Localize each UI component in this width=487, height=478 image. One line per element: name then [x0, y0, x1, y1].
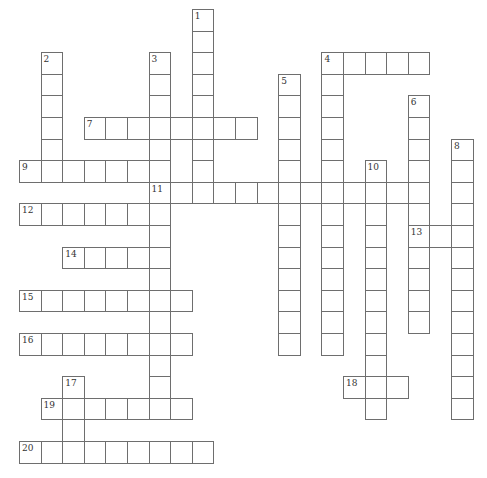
crossword-cell[interactable]	[235, 117, 258, 140]
crossword-cell[interactable]	[127, 117, 150, 140]
crossword-cell[interactable]	[321, 160, 344, 183]
crossword-cell[interactable]	[149, 160, 172, 183]
crossword-cell[interactable]: 18	[343, 376, 366, 399]
crossword-cell[interactable]	[386, 376, 409, 399]
crossword-cell[interactable]	[257, 182, 280, 205]
crossword-cell[interactable]	[278, 268, 301, 291]
crossword-cell[interactable]	[278, 203, 301, 226]
crossword-cell[interactable]	[343, 182, 366, 205]
crossword-cell[interactable]	[321, 139, 344, 162]
crossword-cell[interactable]: 2	[41, 52, 64, 75]
crossword-cell[interactable]	[386, 182, 409, 205]
crossword-cell[interactable]	[41, 139, 64, 162]
crossword-cell[interactable]: 15	[19, 290, 42, 313]
crossword-cell[interactable]	[192, 441, 215, 464]
crossword-cell[interactable]	[278, 333, 301, 356]
crossword-cell[interactable]	[41, 160, 64, 183]
crossword-cell[interactable]	[451, 160, 474, 183]
crossword-cell[interactable]	[365, 290, 388, 313]
crossword-cell[interactable]	[149, 290, 172, 313]
crossword-cell[interactable]	[170, 117, 193, 140]
crossword-cell[interactable]	[213, 117, 236, 140]
crossword-cell[interactable]: 14	[62, 247, 85, 270]
crossword-cell[interactable]	[84, 333, 107, 356]
crossword-cell[interactable]	[408, 182, 431, 205]
crossword-cell[interactable]	[365, 225, 388, 248]
crossword-cell[interactable]	[41, 290, 64, 313]
crossword-cell[interactable]: 19	[41, 398, 64, 421]
crossword-cell[interactable]	[192, 52, 215, 75]
crossword-cell[interactable]	[386, 52, 409, 75]
crossword-cell[interactable]	[149, 225, 172, 248]
crossword-cell[interactable]	[62, 441, 85, 464]
crossword-cell[interactable]	[365, 203, 388, 226]
crossword-cell[interactable]	[149, 203, 172, 226]
crossword-cell[interactable]	[408, 52, 431, 75]
crossword-cell[interactable]	[278, 311, 301, 334]
crossword-cell[interactable]	[300, 182, 323, 205]
crossword-cell[interactable]	[62, 160, 85, 183]
crossword-cell[interactable]	[105, 398, 128, 421]
crossword-cell[interactable]	[365, 333, 388, 356]
crossword-cell[interactable]	[451, 225, 474, 248]
crossword-cell[interactable]	[41, 441, 64, 464]
crossword-cell[interactable]	[149, 376, 172, 399]
crossword-cell[interactable]	[321, 74, 344, 97]
crossword-cell[interactable]	[105, 441, 128, 464]
crossword-cell[interactable]	[278, 290, 301, 313]
crossword-cell[interactable]: 7	[84, 117, 107, 140]
crossword-cell[interactable]	[127, 398, 150, 421]
crossword-cell[interactable]	[451, 290, 474, 313]
crossword-cell[interactable]	[170, 290, 193, 313]
crossword-cell[interactable]	[321, 268, 344, 291]
crossword-cell[interactable]	[62, 333, 85, 356]
crossword-cell[interactable]	[365, 376, 388, 399]
crossword-cell[interactable]	[105, 247, 128, 270]
crossword-cell[interactable]	[365, 355, 388, 378]
crossword-cell[interactable]: 4	[321, 52, 344, 75]
crossword-cell[interactable]	[278, 95, 301, 118]
crossword-cell[interactable]	[321, 182, 344, 205]
crossword-cell[interactable]	[451, 376, 474, 399]
crossword-cell[interactable]	[278, 117, 301, 140]
crossword-cell[interactable]	[365, 311, 388, 334]
crossword-cell[interactable]	[62, 290, 85, 313]
crossword-cell[interactable]	[365, 268, 388, 291]
crossword-cell[interactable]	[192, 117, 215, 140]
crossword-cell[interactable]	[278, 247, 301, 270]
crossword-cell[interactable]	[321, 225, 344, 248]
crossword-cell[interactable]	[408, 311, 431, 334]
crossword-cell[interactable]	[149, 139, 172, 162]
crossword-cell[interactable]: 16	[19, 333, 42, 356]
crossword-cell[interactable]	[149, 247, 172, 270]
crossword-cell[interactable]	[192, 31, 215, 54]
crossword-cell[interactable]	[41, 203, 64, 226]
crossword-cell[interactable]	[213, 182, 236, 205]
crossword-cell[interactable]	[127, 160, 150, 183]
crossword-cell[interactable]	[105, 203, 128, 226]
crossword-cell[interactable]	[84, 290, 107, 313]
crossword-cell[interactable]	[408, 160, 431, 183]
crossword-cell[interactable]: 12	[19, 203, 42, 226]
crossword-cell[interactable]	[451, 247, 474, 270]
crossword-cell[interactable]	[321, 117, 344, 140]
crossword-cell[interactable]: 11	[149, 182, 172, 205]
crossword-cell[interactable]: 9	[19, 160, 42, 183]
crossword-cell[interactable]	[149, 355, 172, 378]
crossword-cell[interactable]	[451, 311, 474, 334]
crossword-cell[interactable]	[192, 139, 215, 162]
crossword-cell[interactable]	[149, 311, 172, 334]
crossword-cell[interactable]	[149, 117, 172, 140]
crossword-cell[interactable]	[321, 290, 344, 313]
crossword-cell[interactable]	[451, 333, 474, 356]
crossword-cell[interactable]: 3	[149, 52, 172, 75]
crossword-cell[interactable]	[127, 333, 150, 356]
crossword-cell[interactable]	[84, 203, 107, 226]
crossword-cell[interactable]	[408, 203, 431, 226]
crossword-cell[interactable]	[41, 117, 64, 140]
crossword-cell[interactable]	[408, 290, 431, 313]
crossword-cell[interactable]	[451, 268, 474, 291]
crossword-cell[interactable]	[105, 117, 128, 140]
crossword-cell[interactable]	[149, 398, 172, 421]
crossword-cell[interactable]	[278, 225, 301, 248]
